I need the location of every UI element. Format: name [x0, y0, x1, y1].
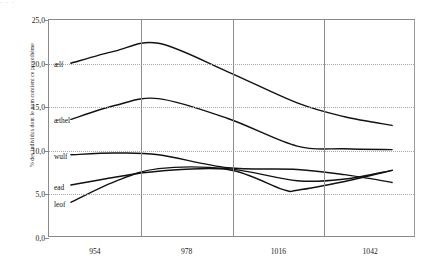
- y-tick-mark: [45, 151, 49, 152]
- y-tick-mark: [45, 64, 49, 65]
- series-label-ead: ead: [54, 182, 64, 191]
- y-tick-mark: [45, 238, 49, 239]
- y-gridline: [49, 151, 414, 152]
- y-tick-label: 25,0: [32, 16, 45, 25]
- x-tick-label: 1016: [271, 247, 286, 256]
- y-tick-label: 20,0: [32, 59, 45, 68]
- series-label-æthel: æthel: [54, 116, 70, 125]
- x-tick-label: 1042: [363, 247, 378, 256]
- x-gridline: [141, 20, 142, 236]
- chart-figure: · · · % des individus dont le nom contie…: [0, 0, 437, 271]
- y-tick-mark: [45, 194, 49, 195]
- y-tick-label: 15,0: [32, 103, 45, 112]
- series-line-leof: [71, 167, 392, 202]
- x-tick-label: 978: [181, 247, 192, 256]
- x-gridline: [324, 20, 325, 236]
- series-line-æthel: [71, 98, 392, 149]
- x-tick-label: 954: [89, 247, 100, 256]
- plot-area: 0,05,010,015,020,025,095497810161042ælfæ…: [48, 19, 415, 237]
- series-label-ælf: ælf: [54, 59, 63, 68]
- y-gridline: [49, 64, 414, 65]
- y-tick-mark: [45, 20, 49, 21]
- series-curves: [49, 20, 414, 236]
- y-tick-label: 0,0: [36, 234, 46, 243]
- series-label-leof: leof: [54, 199, 66, 208]
- series-line-ælf: [71, 42, 392, 125]
- y-tick-mark: [45, 107, 49, 108]
- y-tick-label: 5,0: [36, 190, 46, 199]
- series-label-wulf: wulf: [54, 152, 68, 161]
- y-gridline: [49, 107, 414, 108]
- x-gridline: [233, 20, 234, 236]
- clipped-caption-remnant: · · ·: [0, 0, 437, 6]
- y-tick-label: 10,0: [32, 146, 45, 155]
- y-gridline: [49, 194, 414, 195]
- series-line-wulf: [71, 153, 392, 182]
